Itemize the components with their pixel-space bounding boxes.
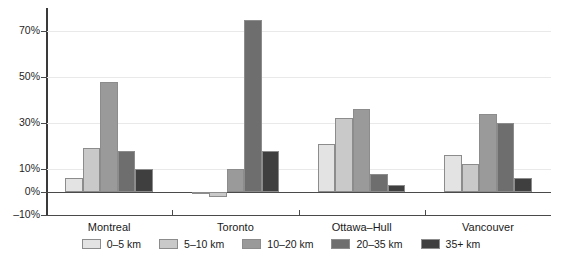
y-axis-line bbox=[46, 8, 48, 215]
legend-swatch bbox=[159, 239, 178, 249]
x-axis-category-label: Vancouver bbox=[425, 221, 551, 233]
group-separator-tick bbox=[172, 210, 173, 215]
group-separator-tick bbox=[299, 210, 300, 215]
y-axis-tick-label: –10% bbox=[0, 208, 40, 220]
bar bbox=[444, 155, 462, 192]
bar bbox=[318, 144, 336, 192]
y-axis-tick-label: 70% bbox=[0, 24, 40, 36]
y-axis-tick-label: 50% bbox=[0, 70, 40, 82]
legend-swatch bbox=[82, 239, 101, 249]
grid-line bbox=[46, 31, 551, 32]
bar bbox=[514, 178, 532, 192]
legend-swatch bbox=[242, 239, 261, 249]
grid-line bbox=[46, 123, 551, 124]
bar bbox=[135, 169, 153, 192]
zero-line bbox=[46, 192, 551, 193]
group-separator-tick bbox=[425, 210, 426, 215]
bar bbox=[335, 118, 353, 192]
legend-label: 35+ km bbox=[446, 238, 481, 250]
legend-swatch bbox=[331, 239, 350, 249]
legend-item[interactable]: 35+ km bbox=[421, 238, 481, 250]
bar bbox=[262, 151, 280, 192]
bar bbox=[244, 20, 262, 193]
legend-label: 20–35 km bbox=[356, 238, 402, 250]
bar bbox=[209, 192, 227, 197]
bar bbox=[370, 174, 388, 192]
y-axis-tick-label: 0% bbox=[0, 185, 40, 197]
y-axis-tick-label: 10% bbox=[0, 162, 40, 174]
bar bbox=[65, 178, 83, 192]
y-axis-tick bbox=[41, 31, 47, 32]
x-axis-category-label: Toronto bbox=[172, 221, 298, 233]
legend-swatch bbox=[421, 239, 440, 249]
legend-label: 0–5 km bbox=[107, 238, 141, 250]
y-axis-tick bbox=[41, 169, 47, 170]
grid-line bbox=[46, 77, 551, 78]
y-axis-tick bbox=[41, 215, 47, 216]
bar bbox=[100, 82, 118, 192]
x-axis-category-label: Montreal bbox=[46, 221, 172, 233]
chart-root: –10%0%10%30%50%70% MontrealTorontoOttawa… bbox=[0, 0, 562, 271]
legend-item[interactable]: 20–35 km bbox=[331, 238, 402, 250]
legend-label: 10–20 km bbox=[267, 238, 313, 250]
legend-item[interactable]: 0–5 km bbox=[82, 238, 141, 250]
bar bbox=[479, 114, 497, 192]
axis-baseline bbox=[46, 215, 551, 216]
x-axis-category-label: Ottawa–Hull bbox=[299, 221, 425, 233]
chart-legend: 0–5 km5–10 km10–20 km20–35 km35+ km bbox=[0, 238, 562, 250]
bar bbox=[462, 164, 480, 192]
bar bbox=[192, 192, 210, 194]
bar bbox=[118, 151, 136, 192]
bar bbox=[497, 123, 515, 192]
y-axis-tick bbox=[41, 123, 47, 124]
y-axis-tick-label: 30% bbox=[0, 116, 40, 128]
legend-item[interactable]: 5–10 km bbox=[159, 238, 224, 250]
y-axis-tick bbox=[41, 192, 47, 193]
plot-area bbox=[46, 8, 551, 215]
legend-item[interactable]: 10–20 km bbox=[242, 238, 313, 250]
y-axis-tick bbox=[41, 77, 47, 78]
legend-label: 5–10 km bbox=[184, 238, 224, 250]
bar bbox=[388, 185, 406, 192]
bar bbox=[353, 109, 371, 192]
bar bbox=[227, 169, 245, 192]
bar bbox=[83, 148, 101, 192]
